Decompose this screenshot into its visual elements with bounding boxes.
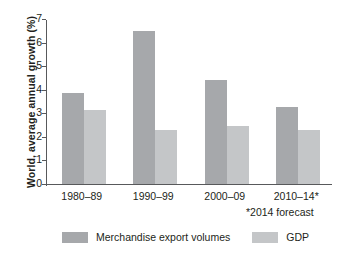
bar-merchandise — [62, 93, 84, 184]
x-axis-label: 1980–89 — [46, 190, 118, 202]
y-tick-label: 2 — [28, 130, 42, 142]
bar-gdp — [227, 126, 249, 184]
y-tick-label: 5 — [28, 59, 42, 71]
bar-gdp — [298, 130, 320, 184]
bar-group — [205, 19, 249, 184]
y-tick: 1 — [46, 160, 50, 161]
y-tick-mark — [42, 137, 46, 138]
forecast-footnote: *2014 forecast — [246, 206, 314, 218]
legend-label-gdp: GDP — [286, 231, 309, 243]
y-tick: 3 — [46, 113, 50, 114]
y-tick-label: 0 — [28, 177, 42, 189]
y-tick: 0 — [46, 184, 50, 185]
bar-gdp — [84, 110, 106, 184]
y-tick: 5 — [46, 66, 50, 67]
legend-label-merchandise: Merchandise export volumes — [96, 231, 230, 243]
y-tick-mark — [42, 66, 46, 67]
bar-merchandise — [276, 107, 298, 184]
y-tick: 7 — [46, 19, 50, 20]
legend-swatch-gdp — [252, 232, 278, 243]
y-tick-mark — [42, 113, 46, 114]
bar-group — [62, 19, 106, 184]
y-tick-mark — [42, 19, 46, 20]
x-axis-label: 2010–14* — [261, 190, 333, 202]
plot-area: 01234567 — [46, 20, 332, 185]
legend-item-gdp: GDP — [252, 231, 309, 243]
y-tick-label: 4 — [28, 83, 42, 95]
bar-chart: World, average annual growth (%) 0123456… — [0, 0, 337, 261]
y-tick: 6 — [46, 43, 50, 44]
y-tick: 2 — [46, 137, 50, 138]
x-axis-label: 2000–09 — [189, 190, 261, 202]
y-tick-label: 1 — [28, 153, 42, 165]
y-tick-mark — [42, 90, 46, 91]
bar-group — [276, 19, 320, 184]
y-tick-mark — [42, 43, 46, 44]
legend-item-merchandise: Merchandise export volumes — [62, 231, 230, 243]
bar-merchandise — [205, 80, 227, 184]
bar-group — [133, 19, 177, 184]
bar-gdp — [155, 130, 177, 184]
y-tick-label: 6 — [28, 36, 42, 48]
legend-swatch-merchandise — [62, 232, 88, 243]
chart-legend: Merchandise export volumes GDP — [62, 231, 309, 243]
x-axis-line — [46, 184, 332, 185]
y-tick-label: 7 — [28, 12, 42, 24]
bar-merchandise — [133, 31, 155, 184]
y-tick-label: 3 — [28, 106, 42, 118]
y-tick-mark — [42, 184, 46, 185]
y-tick: 4 — [46, 90, 50, 91]
y-tick-mark — [42, 160, 46, 161]
x-axis-label: 1990–99 — [118, 190, 190, 202]
